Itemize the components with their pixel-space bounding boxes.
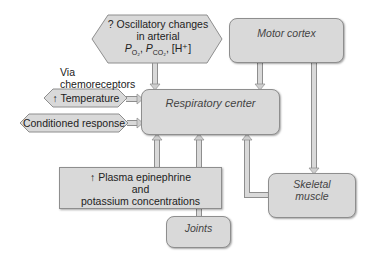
arrow-motor-to-respiratory <box>255 62 265 90</box>
joints-label: Joints <box>167 222 230 234</box>
oscillatory-changes-node: ? Oscillatory changes in arterial PO₂, P… <box>98 18 218 59</box>
arrow-motor-to-skeletal <box>309 62 319 174</box>
p-symbol-2: P <box>146 42 153 54</box>
h-plus: , [H⁺] <box>166 42 191 54</box>
arrow-plasma <box>152 134 162 167</box>
conditioned-response-node: Conditioned response <box>22 117 126 129</box>
arrow-skeletal-to-respiratory <box>242 134 268 195</box>
respiratory-center-label: Respiratory center <box>142 97 279 109</box>
plasma-line1: ↑ Plasma epinephrine <box>60 171 221 183</box>
via-chemoreceptors-label: Via chemoreceptors <box>60 66 152 90</box>
temperature-node: ↑ Temperature <box>48 92 124 104</box>
respiratory-center-node: Respiratory center <box>141 89 280 135</box>
oscillatory-line2: in arterial <box>98 30 218 42</box>
p-symbol: P <box>125 42 132 54</box>
motor-cortex-label: Motor cortex <box>230 27 343 39</box>
plasma-line2: and <box>60 183 221 195</box>
plasma-line3: potassium concentrations <box>60 195 221 207</box>
plasma-epinephrine-node: ↑ Plasma epinephrine and potassium conce… <box>59 167 222 209</box>
motor-cortex-node: Motor cortex <box>229 18 344 63</box>
joints-node: Joints <box>166 216 231 248</box>
oscillatory-line3: PO₂, PCO₂, [H⁺] <box>98 42 218 59</box>
o2-subscript: O₂ <box>132 49 140 56</box>
co2-subscript: CO₂ <box>153 49 166 56</box>
skeletal-muscle-node: Skeletal muscle <box>268 173 356 218</box>
skeletal-line2: muscle <box>269 190 355 202</box>
skeletal-line1: Skeletal <box>269 178 355 190</box>
oscillatory-line1: ? Oscillatory changes <box>98 18 218 30</box>
